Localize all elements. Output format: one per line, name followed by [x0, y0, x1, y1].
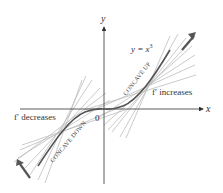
- f-prime-decreases-label: f′ decreases: [14, 112, 56, 122]
- function-label-text: y = x: [130, 44, 150, 54]
- curve-arrow-lower: [16, 159, 30, 178]
- function-exponent: 3: [150, 43, 153, 49]
- y-axis-label: y: [100, 13, 106, 24]
- diagram-svg: y x 0 y = x3 f′ increases f′ decreases C…: [0, 0, 223, 193]
- f-prime-increases-label: f′ increases: [152, 87, 193, 97]
- origin-label: 0: [95, 113, 100, 123]
- concavity-diagram: y x 0 y = x3 f′ increases f′ decreases C…: [0, 0, 223, 193]
- x-axis-label: x: [205, 103, 211, 114]
- function-label: y = x3: [130, 43, 153, 54]
